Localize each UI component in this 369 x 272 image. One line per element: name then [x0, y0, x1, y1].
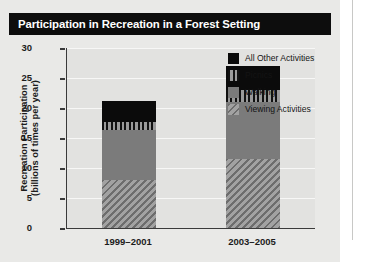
bar-segment [102, 130, 156, 180]
legend-item: Walking [228, 84, 314, 101]
legend-swatch-icon [228, 104, 239, 115]
bar-segment [226, 159, 280, 228]
legend-item-label: Picnics [245, 71, 272, 80]
y-axis-tick-mark [60, 198, 65, 200]
x-axis-tick-label: 1999–2001 [88, 236, 168, 247]
y-axis-tick-label: 20 [10, 103, 32, 113]
y-axis-tick-label: 25 [10, 73, 32, 83]
right-margin [340, 0, 369, 272]
bar-segment [102, 180, 156, 228]
x-axis-tick-label: 2003–2005 [212, 236, 292, 247]
legend-swatch-icon [228, 53, 239, 64]
gridline [67, 48, 315, 49]
bar-segment [102, 122, 156, 130]
bottom-margin [0, 262, 369, 272]
y-axis-tick-mark [60, 228, 65, 230]
chart-title-bar: Participation in Recreation in a Forest … [9, 13, 331, 35]
y-axis-tick-mark [60, 168, 65, 170]
legend-item: All Other Activities [228, 50, 314, 67]
y-axis-tick-mark [60, 78, 65, 80]
page-title: Participation in Recreation in a Forest … [18, 13, 260, 35]
legend-item-label: All Other Activities [245, 54, 314, 63]
y-axis-tick-mark [60, 108, 65, 110]
legend-item: Viewing Activities [228, 101, 314, 118]
legend-swatch-icon [228, 70, 239, 81]
legend-swatch-icon [228, 87, 239, 98]
y-axis-tick-label: 5 [10, 193, 32, 203]
y-axis-tick-label: 10 [10, 163, 32, 173]
page-edge-rule [352, 0, 353, 240]
bar-segment [102, 101, 156, 122]
bar-stack [102, 101, 156, 228]
y-axis-tick-mark [60, 138, 65, 140]
chart-legend: All Other ActivitiesPicnicsWalkingViewin… [228, 50, 314, 118]
y-axis-tick-mark [60, 48, 65, 50]
y-axis-tick-label: 0 [10, 223, 32, 233]
legend-item-label: Viewing Activities [245, 105, 311, 114]
chart-figure: Participation in Recreation in a Forest … [0, 0, 340, 262]
legend-item-label: Walking [245, 88, 275, 97]
y-axis-tick-label: 30 [10, 43, 32, 53]
y-axis-tick-label: 15 [10, 133, 32, 143]
legend-item: Picnics [228, 67, 314, 84]
